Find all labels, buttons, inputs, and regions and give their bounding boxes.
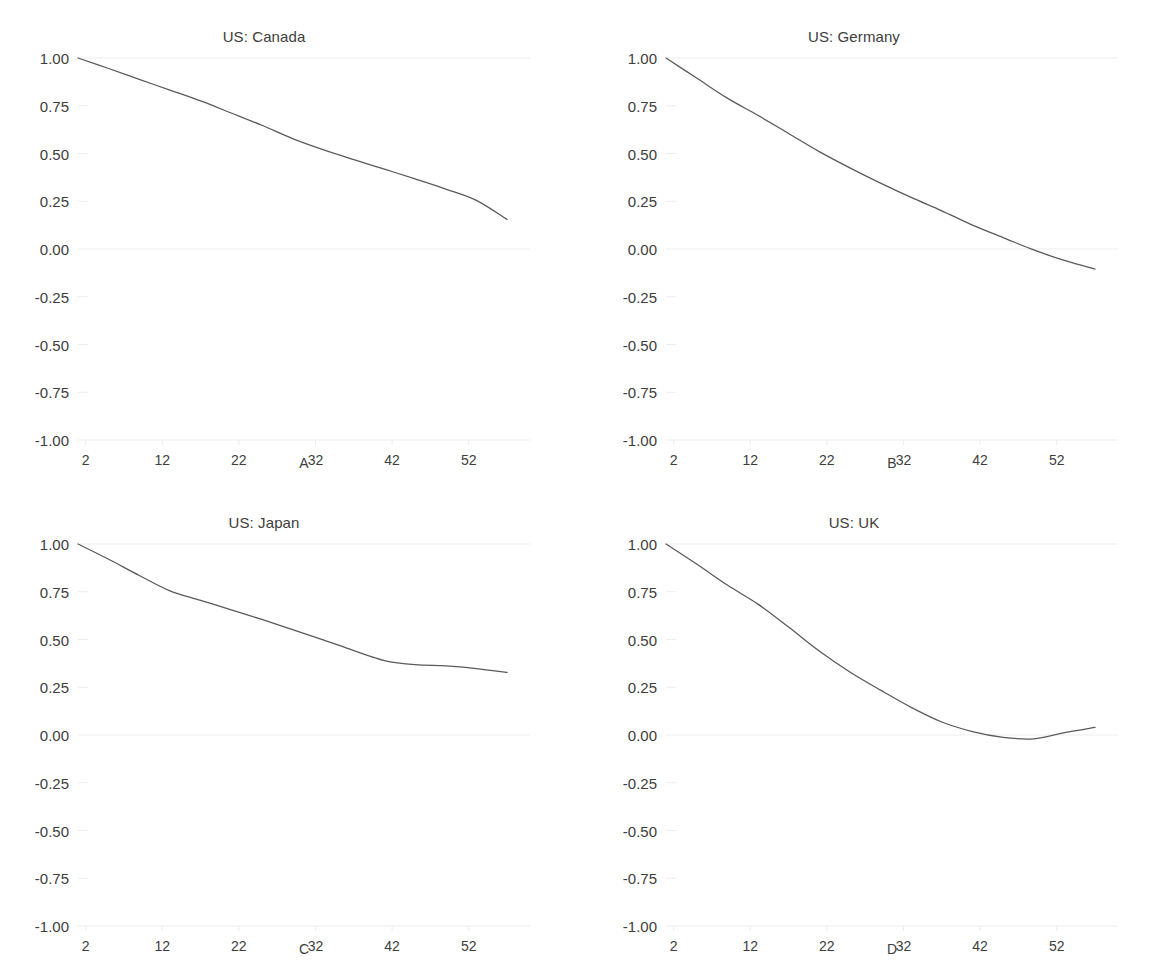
y-axis-tick-label: 0.50 [40,631,69,648]
y-axis-tick-label: -0.50 [35,822,69,839]
y-axis-tick-label: -1.00 [623,432,657,449]
gridlines [78,544,530,926]
plot-area: 1.000.750.500.250.00-0.25-0.50-0.75-1.00… [666,544,1118,926]
y-axis-tick-label: -1.00 [35,918,69,935]
panel-letter: A [78,455,530,471]
y-axis-tick-label: -0.75 [623,870,657,887]
plot-area: 1.000.750.500.250.00-0.25-0.50-0.75-1.00… [78,58,530,440]
gridlines [666,58,1118,440]
tick-marks [86,926,469,931]
plot-area: 1.000.750.500.250.00-0.25-0.50-0.75-1.00… [78,544,530,926]
y-axis-tick-label: 0.75 [628,97,657,114]
y-axis-tick-label: 0.50 [40,145,69,162]
y-axis-tick-label: -0.25 [35,774,69,791]
y-axis-tick-label: -0.25 [623,288,657,305]
y-axis-tick-label: 0.50 [628,145,657,162]
y-axis-tick-label: 1.00 [40,536,69,553]
y-axis-tick-label: 0.00 [628,241,657,258]
panel-letter: D [666,941,1118,957]
y-axis-tick-label: 1.00 [628,536,657,553]
y-axis-tick-label: 0.25 [628,679,657,696]
y-axis-tick-label: 1.00 [40,50,69,67]
panel-title: US: Japan [0,514,588,531]
panel-title: US: Germany [588,28,1176,45]
y-axis-tick-label: 0.00 [40,727,69,744]
y-axis-tick-label: -0.50 [623,336,657,353]
tick-marks [674,926,1057,931]
y-axis-tick-label: 1.00 [628,50,657,67]
panel-title: US: UK [588,514,1176,531]
panel-us-canada: US: Canada 1.000.750.500.250.00-0.25-0.5… [0,0,588,485]
y-axis-tick-label: -0.75 [623,384,657,401]
panel-us-uk: US: UK 1.000.750.500.250.00-0.25-0.50-0.… [588,486,1176,971]
series-line [78,58,507,219]
gridlines [666,544,1118,926]
y-axis-tick-label: -0.25 [623,774,657,791]
y-axis-tick-label: 0.75 [628,583,657,600]
y-axis-tick-label: 0.75 [40,583,69,600]
panel-us-germany: US: Germany 1.000.750.500.250.00-0.25-0.… [588,0,1176,485]
y-axis-tick-label: 0.75 [40,97,69,114]
gridlines [78,58,530,440]
chart-grid: US: Canada 1.000.750.500.250.00-0.25-0.5… [0,0,1176,971]
y-axis-tick-label: -0.50 [623,822,657,839]
y-axis-tick-label: 0.50 [628,631,657,648]
y-axis-tick-label: -0.75 [35,384,69,401]
plot-svg [666,58,1118,440]
series-line [666,544,1095,739]
y-axis-tick-label: -1.00 [35,432,69,449]
plot-svg [666,544,1118,926]
y-axis-tick-label: 0.25 [628,193,657,210]
plot-area: 1.000.750.500.250.00-0.25-0.50-0.75-1.00… [666,58,1118,440]
y-axis-tick-label: 0.25 [40,193,69,210]
tick-marks [674,440,1057,445]
panel-letter: B [666,455,1118,471]
y-axis-tick-label: 0.00 [40,241,69,258]
y-axis-tick-label: 0.25 [40,679,69,696]
y-axis-tick-label: -1.00 [623,918,657,935]
y-axis-tick-label: -0.50 [35,336,69,353]
panel-us-japan: US: Japan 1.000.750.500.250.00-0.25-0.50… [0,486,588,971]
panel-title: US: Canada [0,28,588,45]
plot-svg [78,544,530,926]
y-axis-tick-label: -0.75 [35,870,69,887]
plot-svg [78,58,530,440]
series-line [666,58,1095,269]
tick-marks [86,440,469,445]
series-line [78,544,507,672]
y-axis-tick-label: 0.00 [628,727,657,744]
panel-letter: C [78,941,530,957]
y-axis-tick-label: -0.25 [35,288,69,305]
